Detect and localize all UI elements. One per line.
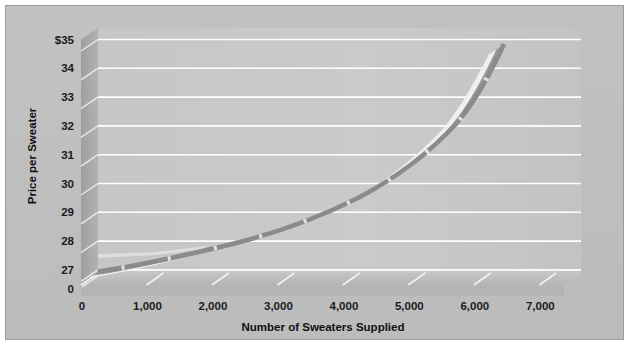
ytick-label-33: 33	[61, 91, 74, 103]
plot-area-background	[98, 28, 581, 273]
xtick-label-4000: 4,000	[330, 300, 359, 312]
y-axis-title: Price per Sweater	[26, 107, 38, 204]
floor-lower-band	[81, 284, 564, 296]
ytick-label-29: 29	[61, 206, 74, 218]
xtick-label-0: 0	[79, 300, 85, 312]
ytick-label-32: 32	[61, 120, 74, 132]
xtick-label-1000: 1,000	[133, 300, 162, 312]
xtick-label-7000: 7,000	[526, 300, 555, 312]
xtick-label-6000: 6,000	[460, 300, 489, 312]
ytick-label-zero: 0	[68, 283, 74, 295]
ytick-label-35: $35	[55, 34, 75, 46]
chart-card: $35 34 33 32 31 30 29 28 27 0 0 1,000 2,…	[5, 5, 624, 340]
x-axis-title: Number of Sweaters Supplied	[242, 321, 405, 333]
ytick-label-28: 28	[61, 235, 74, 247]
ytick-label-34: 34	[61, 62, 74, 74]
xtick-label-2000: 2,000	[199, 300, 228, 312]
ytick-label-30: 30	[61, 178, 74, 190]
xtick-label-5000: 5,000	[395, 300, 424, 312]
ytick-label-31: 31	[61, 149, 74, 161]
ytick-label-27: 27	[61, 264, 74, 276]
supply-curve-chart: $35 34 33 32 31 30 29 28 27 0 0 1,000 2,…	[6, 6, 623, 339]
chart-screenshot: $35 34 33 32 31 30 29 28 27 0 0 1,000 2,…	[0, 0, 629, 345]
xtick-label-3000: 3,000	[264, 300, 293, 312]
